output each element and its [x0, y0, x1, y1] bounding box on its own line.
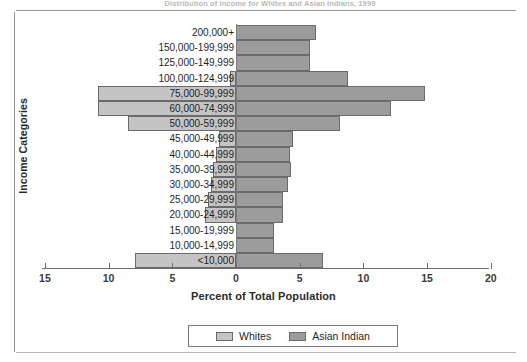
chart-bar-row: 25,000-29,999 [0, 192, 527, 207]
y-axis-category-label: 200,000+ [192, 26, 236, 39]
y-axis-category-label: <10,000 [198, 254, 236, 267]
chart-bar-row: 75,000-99,999 [0, 86, 527, 101]
chart-bar-row: 200,000+ [0, 25, 527, 40]
bar-asian-indian [236, 71, 348, 86]
y-axis-category-label: 100,000-124,999 [158, 72, 236, 85]
chart-bar-row: 150,000-199,999 [0, 40, 527, 55]
y-axis-category-label: 15,000-19,999 [169, 224, 236, 237]
x-axis-tick-label: 20 [471, 272, 511, 284]
legend-entry-whites: Whites [216, 330, 271, 342]
y-axis-category-label: 125,000-149,999 [158, 56, 236, 69]
chart-bar-row: 40,000-44,999 [0, 147, 527, 162]
figure-page: Distribution of Income for Whites and As… [0, 0, 527, 362]
bar-asian-indian [236, 192, 283, 207]
chart-bar-row: 15,000-19,999 [0, 223, 527, 238]
x-axis-tick [45, 263, 46, 269]
y-axis-category-label: 25,000-29,999 [169, 193, 236, 206]
bar-asian-indian [236, 101, 391, 116]
legend-entry-asian-indian: Asian Indian [289, 330, 370, 342]
x-axis-tick-label: 5 [152, 272, 192, 284]
x-axis-tick [109, 263, 110, 269]
chart-bar-row: 20,000-24,999 [0, 207, 527, 222]
chart-bar-row: 30,000-34,999 [0, 177, 527, 192]
legend-swatch-whites [216, 332, 233, 341]
chart-bar-row: 60,000-74,999 [0, 101, 527, 116]
chart-plot-area: Income Categories 200,000+150,000-199,99… [0, 0, 527, 362]
bar-asian-indian [236, 116, 340, 131]
x-axis-tick-label: 0 [216, 272, 256, 284]
x-axis-tick [172, 263, 173, 269]
bar-asian-indian [236, 131, 293, 146]
legend-label-whites: Whites [239, 330, 271, 342]
x-axis-tick-label: 15 [407, 272, 447, 284]
x-axis-tick-label: 5 [280, 272, 320, 284]
bar-rows: 200,000+150,000-199,999125,000-149,99910… [0, 25, 527, 268]
zero-axis-line [236, 24, 237, 268]
bar-asian-indian [236, 253, 323, 268]
chart-bar-row: 100,000-124,999 [0, 71, 527, 86]
x-axis-tick [363, 263, 364, 269]
x-axis-tick-label: 10 [343, 272, 383, 284]
chart-bar-row: 125,000-149,999 [0, 55, 527, 70]
x-axis-tick-label: 15 [25, 272, 65, 284]
y-axis-category-label: 150,000-199,999 [158, 41, 236, 54]
bar-asian-indian [236, 238, 274, 253]
bar-asian-indian [236, 223, 274, 238]
y-axis-category-label: 30,000-34,999 [169, 178, 236, 191]
bar-asian-indian [236, 207, 283, 222]
bar-asian-indian [236, 25, 316, 40]
chart-bar-row: <10,000 [0, 253, 527, 268]
chart-bar-row: 35,000-39,999 [0, 162, 527, 177]
x-axis-tick [300, 263, 301, 269]
chart-bar-row: 50,000-59,999 [0, 116, 527, 131]
legend-swatch-asian-indian [289, 332, 306, 341]
x-axis-tick [236, 263, 237, 269]
y-axis-category-label: 40,000-44,999 [169, 148, 236, 161]
y-axis-category-label: 20,000-24,999 [169, 208, 236, 221]
y-axis-category-label: 50,000-59,999 [169, 117, 236, 130]
y-axis-category-label: 10,000-14,999 [169, 239, 236, 252]
bar-asian-indian [236, 55, 310, 70]
legend-label-asian-indian: Asian Indian [312, 330, 370, 342]
x-axis-tick-label: 10 [89, 272, 129, 284]
y-axis-category-label: 35,000-39,999 [169, 163, 236, 176]
chart-bar-row: 45,000-49,999 [0, 131, 527, 146]
y-axis-category-label: 45,000-49,999 [169, 132, 236, 145]
x-axis-tick [491, 263, 492, 269]
bar-asian-indian [236, 86, 425, 101]
x-axis-title: Percent of Total Population [0, 290, 527, 302]
y-axis-category-label: 60,000-74,999 [169, 102, 236, 115]
chart-legend: Whites Asian Indian [188, 325, 398, 347]
y-axis-category-label: 75,000-99,999 [169, 87, 236, 100]
bar-asian-indian [236, 147, 290, 162]
bar-asian-indian [236, 40, 310, 55]
x-axis-tick [427, 263, 428, 269]
bar-asian-indian [236, 162, 291, 177]
bar-asian-indian [236, 177, 288, 192]
chart-bar-row: 10,000-14,999 [0, 238, 527, 253]
